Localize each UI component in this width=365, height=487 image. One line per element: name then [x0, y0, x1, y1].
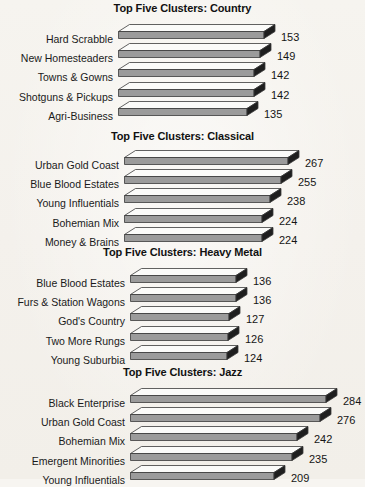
- bar-5: [130, 345, 240, 361]
- chart-row: Furs & Station Wagons136: [0, 287, 365, 306]
- bar-value-label: 235: [309, 452, 327, 466]
- bar-value-label: 142: [271, 68, 289, 82]
- bar-4: [130, 446, 305, 462]
- chart-row: Young Influentials209: [0, 465, 365, 484]
- bar-value-label: 153: [281, 30, 299, 44]
- category-label: Young Suburbia: [51, 353, 125, 367]
- bar-value-label: 224: [279, 214, 297, 228]
- bar-value-label: 224: [279, 233, 297, 247]
- bar-2: [130, 287, 249, 303]
- bar-value-label: 126: [245, 332, 263, 346]
- category-label: Agri-Business: [48, 109, 113, 123]
- chart-row: Young Suburbia124: [0, 345, 365, 364]
- bar-2: [118, 43, 273, 59]
- chart-row: New Homesteaders149: [0, 43, 365, 62]
- bar-3: [124, 188, 283, 204]
- chart-row: Black Enterprise284: [0, 388, 365, 407]
- chart-row: Bohemian Mix224: [0, 208, 365, 227]
- chart-row: Bohemian Mix242: [0, 426, 365, 445]
- chart-row: Hard Scrabble153: [0, 24, 365, 43]
- bar-1: [124, 150, 301, 166]
- chart-row: Urban Gold Coast276: [0, 407, 365, 426]
- bar-4: [124, 208, 275, 224]
- bar-2: [124, 169, 294, 185]
- bar-value-label: 124: [244, 351, 262, 365]
- chart-title: Top Five Clusters: Country: [0, 2, 365, 14]
- bar-value-label: 276: [337, 413, 355, 427]
- bar-value-label: 255: [298, 175, 316, 189]
- chart-row: Blue Blood Estates136: [0, 268, 365, 287]
- chart-row: Money & Brains224: [0, 227, 365, 246]
- chart-row: Urban Gold Coast267: [0, 150, 365, 169]
- bar-5: [130, 465, 287, 481]
- bar-1: [130, 268, 249, 284]
- bar-value-label: 149: [277, 49, 295, 63]
- chart-row: Shotguns & Pickups142: [0, 82, 365, 101]
- chart-row: God's Country127: [0, 306, 365, 325]
- bar-value-label: 238: [287, 194, 305, 208]
- chart-row: Blue Blood Estates255: [0, 169, 365, 188]
- bar-4: [130, 326, 241, 342]
- bar-value-label: 136: [253, 293, 271, 307]
- bar-value-label: 242: [314, 432, 332, 446]
- chart-row: Emergent Minorities235: [0, 446, 365, 465]
- bar-value-label: 267: [305, 156, 323, 170]
- chart-title: Top Five Clusters: Classical: [0, 130, 365, 142]
- bar-5: [124, 227, 275, 243]
- bar-3: [130, 306, 242, 322]
- chart-title: Top Five Clusters: Heavy Metal: [0, 246, 365, 258]
- chart-row: Towns & Gowns142: [0, 62, 365, 81]
- bar-value-label: 142: [271, 88, 289, 102]
- bar-3: [130, 426, 310, 442]
- bar-1: [130, 388, 339, 404]
- chart-row: Agri-Business135: [0, 101, 365, 120]
- bar-4: [118, 82, 267, 98]
- bar-value-label: 127: [246, 312, 264, 326]
- bar-value-label: 135: [264, 107, 282, 121]
- chart-title: Top Five Clusters: Jazz: [0, 366, 365, 378]
- category-label: Young Influentials: [42, 473, 125, 487]
- chart-row: Young Influentials238: [0, 188, 365, 207]
- bar-2: [130, 407, 333, 423]
- bar-value-label: 136: [253, 274, 271, 288]
- bar-1: [118, 24, 277, 40]
- bar-3: [118, 62, 267, 78]
- bar-5: [118, 101, 260, 117]
- chart-row: Two More Rungs126: [0, 326, 365, 345]
- bar-value-label: 209: [291, 471, 309, 485]
- bar-value-label: 284: [343, 394, 361, 408]
